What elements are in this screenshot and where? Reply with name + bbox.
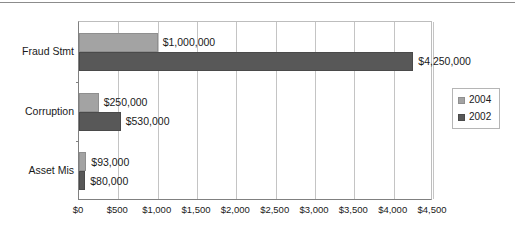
gridline bbox=[197, 22, 198, 199]
gridline bbox=[158, 22, 159, 199]
category-tick bbox=[76, 141, 79, 142]
plot-area: $1,000,000$4,250,000$250,000$530,000$93,… bbox=[78, 21, 432, 200]
x-axis-tick-label: $4,000 bbox=[378, 205, 407, 215]
x-axis-tick-label: $4,500 bbox=[417, 205, 446, 215]
bar-chart: Fraud StmtCorruptionAsset Mis $1,000,000… bbox=[0, 0, 515, 235]
legend: 2004 2002 bbox=[452, 88, 500, 129]
category-label: Fraud Stmt bbox=[2, 46, 74, 57]
gridline bbox=[236, 22, 237, 199]
bar-value-label: $1,000,000 bbox=[163, 37, 216, 48]
legend-swatch-2002-icon bbox=[458, 114, 465, 121]
gridline bbox=[276, 22, 277, 199]
bar-2002-asset-mis bbox=[79, 171, 85, 190]
bar-2004-fraud-stmt bbox=[79, 33, 158, 52]
bar-2002-corruption bbox=[79, 112, 121, 131]
bar-value-label: $250,000 bbox=[104, 97, 148, 108]
gridline bbox=[354, 22, 355, 199]
x-axis-tick-label: $1,000 bbox=[142, 205, 171, 215]
bar-2002-fraud-stmt bbox=[79, 52, 413, 71]
bar-value-label: $530,000 bbox=[126, 116, 170, 127]
legend-label-2002: 2002 bbox=[469, 112, 491, 122]
x-axis-tick-label: $3,000 bbox=[299, 205, 328, 215]
category-label: Corruption bbox=[2, 106, 74, 117]
legend-label-2004: 2004 bbox=[469, 95, 491, 105]
gridline bbox=[315, 22, 316, 199]
bar-2004-asset-mis bbox=[79, 152, 86, 171]
x-axis-tick-label: $500 bbox=[107, 205, 128, 215]
x-axis-tick-label: $1,500 bbox=[181, 205, 210, 215]
category-label: Asset Mis bbox=[2, 165, 74, 176]
x-axis-tick-label: $0 bbox=[73, 205, 84, 215]
top-divider bbox=[0, 2, 515, 3]
category-axis: Fraud StmtCorruptionAsset Mis bbox=[0, 21, 74, 200]
bar-value-label: $80,000 bbox=[90, 176, 128, 187]
legend-item-2002[interactable]: 2002 bbox=[458, 111, 491, 123]
gridline bbox=[394, 22, 395, 199]
x-axis-tick-label: $2,000 bbox=[221, 205, 250, 215]
bar-value-label: $93,000 bbox=[91, 157, 129, 168]
bar-2004-corruption bbox=[79, 93, 99, 112]
legend-swatch-2004-icon bbox=[458, 97, 465, 104]
x-axis-tick-label: $2,500 bbox=[260, 205, 289, 215]
category-tick bbox=[76, 82, 79, 83]
legend-item-2004[interactable]: 2004 bbox=[458, 94, 491, 106]
x-axis-tick-label: $3,500 bbox=[339, 205, 368, 215]
gridline bbox=[433, 22, 434, 199]
bar-value-label: $4,250,000 bbox=[418, 56, 471, 67]
